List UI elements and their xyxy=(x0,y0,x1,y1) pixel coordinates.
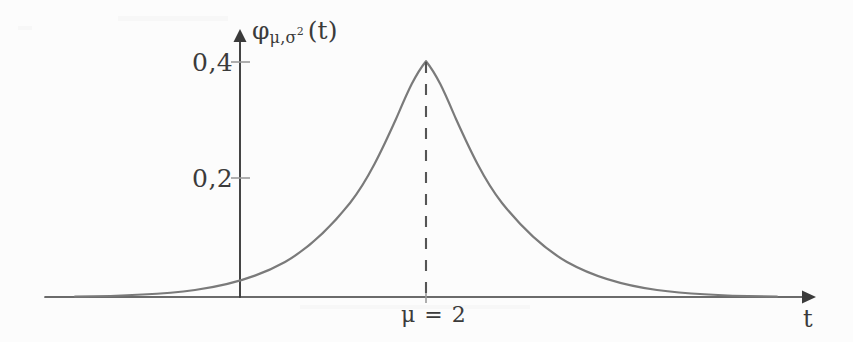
y-tick-label-0-4: 0,4 xyxy=(192,50,233,75)
phi-argument: (t) xyxy=(308,16,338,45)
y-axis-arrowhead xyxy=(234,29,247,42)
gaussian-plot xyxy=(0,0,853,342)
phi-subscript: μ,σ xyxy=(270,28,297,47)
y-axis-label: φμ,σ2(t) xyxy=(252,18,337,46)
x-axis-arrowhead xyxy=(802,291,816,304)
y-tick-label-0-2: 0,2 xyxy=(192,166,233,191)
mu-annotation-label: μ = 2 xyxy=(401,304,467,326)
phi-superscript: 2 xyxy=(297,25,304,38)
phi-symbol: φ xyxy=(252,16,270,45)
figure-canvas: 0,4 0,2 φμ,σ2(t) t μ = 2 xyxy=(0,0,853,342)
x-axis-label: t xyxy=(803,307,813,331)
